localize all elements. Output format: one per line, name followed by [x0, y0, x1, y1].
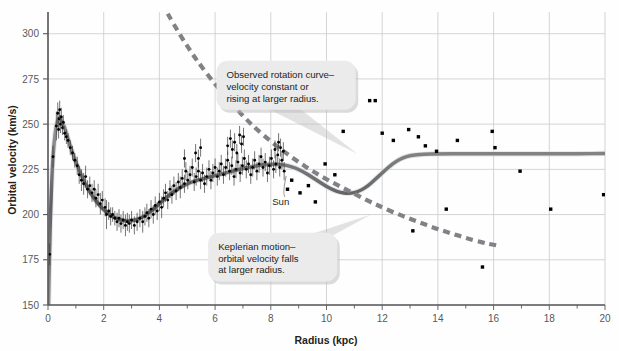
data-point — [78, 173, 81, 176]
callout-text-line: velocity constant or — [226, 81, 309, 92]
sun-label: Sun — [272, 196, 289, 207]
data-point — [283, 170, 286, 173]
x-tick-label: 8 — [268, 313, 274, 324]
data-point — [274, 162, 277, 165]
data-point — [270, 157, 273, 160]
data-point — [333, 173, 336, 176]
y-axis-title: Orbital velocity (km/s) — [6, 105, 18, 215]
y-tick-label: 150 — [22, 300, 39, 311]
data-point — [249, 173, 252, 176]
data-point — [179, 186, 182, 189]
data-point — [201, 172, 204, 175]
data-point — [71, 152, 74, 155]
data-point — [130, 219, 133, 222]
data-point — [240, 143, 243, 146]
data-point — [220, 162, 223, 165]
data-point — [197, 157, 200, 160]
data-point — [183, 157, 186, 160]
data-point — [175, 190, 178, 193]
data-point — [491, 130, 494, 133]
data-point — [97, 193, 100, 196]
data-point — [152, 213, 155, 216]
data-point — [286, 188, 289, 191]
x-tick-label: 4 — [157, 313, 163, 324]
data-point — [150, 208, 153, 211]
data-point — [242, 135, 245, 138]
data-point — [258, 162, 261, 165]
data-point — [88, 184, 91, 187]
data-point — [141, 220, 144, 223]
rotation-curve-figure: 02468101214161820150175200225250275300 O… — [0, 0, 619, 351]
x-tick-label: 12 — [377, 313, 389, 324]
data-point — [52, 155, 55, 158]
data-point — [58, 108, 61, 111]
data-point — [194, 152, 197, 155]
data-point — [193, 181, 196, 184]
data-point — [169, 188, 172, 191]
data-point — [279, 146, 282, 149]
x-tick-label: 18 — [544, 313, 556, 324]
data-point — [82, 182, 85, 185]
data-point — [156, 210, 159, 213]
data-point — [374, 99, 377, 102]
data-point — [222, 173, 225, 176]
data-point — [154, 204, 157, 207]
data-point — [111, 213, 114, 216]
data-point — [136, 220, 139, 223]
callout-text-line: Keplerian motion– — [218, 241, 296, 252]
data-point — [84, 175, 87, 178]
data-point — [164, 191, 167, 194]
data-point — [67, 139, 70, 142]
data-point — [170, 193, 173, 196]
data-point — [172, 184, 175, 187]
data-point — [133, 224, 136, 227]
x-tick-label: 6 — [212, 313, 218, 324]
data-point — [208, 168, 211, 171]
data-point — [274, 148, 277, 151]
y-tick-label: 225 — [22, 164, 39, 175]
x-axis-title: Radius (kpc) — [294, 334, 357, 346]
data-point — [260, 155, 263, 158]
data-point — [197, 170, 200, 173]
y-tick-label: 250 — [22, 119, 39, 130]
data-point — [368, 99, 371, 102]
data-point — [239, 172, 242, 175]
data-point — [230, 164, 233, 167]
data-point — [298, 191, 301, 194]
data-point — [205, 175, 208, 178]
data-point — [282, 150, 285, 153]
data-point — [456, 139, 459, 142]
data-point — [247, 162, 250, 165]
data-point — [63, 132, 66, 135]
data-point — [181, 177, 184, 180]
data-point — [116, 220, 119, 223]
data-point — [233, 175, 236, 178]
data-point — [381, 131, 384, 134]
data-point — [177, 181, 180, 184]
data-point — [143, 215, 146, 218]
data-point — [549, 207, 552, 210]
data-point — [481, 265, 484, 268]
data-point — [251, 166, 254, 169]
data-point — [104, 206, 107, 209]
data-point — [191, 166, 194, 169]
data-point — [243, 157, 246, 160]
data-point — [224, 166, 227, 169]
data-point — [445, 207, 448, 210]
data-point — [147, 217, 150, 220]
data-point — [417, 135, 420, 138]
data-point — [162, 197, 165, 200]
data-point — [235, 152, 238, 155]
y-tick-label: 300 — [22, 28, 39, 39]
data-point — [277, 141, 280, 144]
data-point — [76, 164, 79, 167]
data-point — [86, 188, 89, 191]
callout-text-line: orbital velocity falls — [218, 253, 299, 264]
y-tick-label: 275 — [22, 74, 39, 85]
data-point — [203, 182, 206, 185]
data-point — [235, 168, 238, 171]
data-point — [392, 139, 395, 142]
data-point — [226, 144, 229, 147]
data-point — [189, 173, 192, 176]
data-point — [518, 169, 521, 172]
